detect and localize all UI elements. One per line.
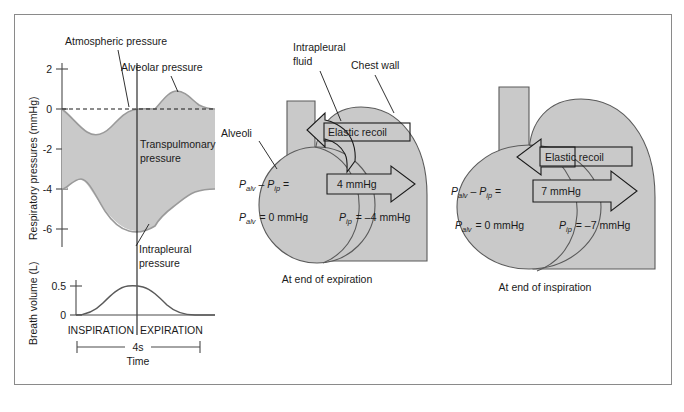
atmospheric-leader-line [118, 50, 129, 107]
palv-symbol: P [239, 211, 246, 223]
inspiration-caption: At end of inspiration [499, 281, 592, 293]
equation-minus: – [470, 185, 476, 197]
phase-label-expiration: EXPIRATION [140, 324, 203, 336]
palv-value-text: = 0 mmHg [259, 211, 308, 223]
figure-frame: Respiratory pressures (mmHg) 2 0 -2 -4 -… [14, 14, 672, 385]
pip-subscript-eq: ip [274, 184, 280, 193]
alveoli-label: Alveoli [221, 127, 252, 139]
duration-label: 4s [132, 341, 143, 353]
y-axis-label: Respiratory pressures (mmHg) [27, 96, 39, 240]
volume-y-axis-label: Breath volume (L) [27, 262, 39, 345]
chest-wall-leader-line [375, 75, 394, 113]
palv-symbol: P [455, 219, 462, 231]
time-axis-label: Time [127, 355, 150, 367]
palv-subscript-eq: alv [458, 191, 469, 200]
expiration-caption: At end of expiration [282, 273, 373, 285]
pip-subscript: ip [346, 217, 352, 226]
equation-value-inspiration: 7 mmHg [541, 185, 581, 197]
pip-subscript-eq: ip [486, 191, 492, 200]
equation-value-expiration: 4 mmHg [337, 178, 377, 190]
equation-equals: = [495, 185, 501, 197]
ytick-label-2: 2 [46, 63, 52, 75]
alveolar-pressure-label: Alveolar pressure [121, 61, 203, 73]
inspiration-panel: Elastic recoil Palv–Pip= 7 mmHg Palv= 0 … [433, 25, 673, 365]
equation-equals: = [283, 178, 289, 190]
alveoli-leader-line [259, 141, 277, 169]
atmospheric-pressure-label: Atmospheric pressure [65, 35, 167, 47]
pip-symbol-eq: P [267, 178, 274, 190]
transpulmonary-pressure-label-line1: Transpulmonary [140, 138, 216, 150]
palv-symbol-eq: P [239, 178, 246, 190]
intrapleural-pressure-label-line2: pressure [139, 257, 180, 269]
pip-symbol: P [339, 211, 346, 223]
ytick-label-neg4: -4 [43, 183, 52, 195]
transpulmonary-pressure-label-line2: pressure [140, 152, 181, 164]
ytick-label-0: 0 [46, 103, 52, 115]
breath-volume-curve [76, 286, 215, 315]
equation-minus: – [258, 178, 264, 190]
intrapleural-fluid-leader-line [320, 71, 341, 121]
palv-subscript: alv [246, 217, 257, 226]
volume-tick-label-0: 0 [60, 309, 66, 321]
pip-subscript: ip [566, 225, 572, 234]
inspiration-svg: Elastic recoil Palv–Pip= 7 mmHg Palv= 0 … [433, 25, 673, 365]
chest-wall-label: Chest wall [351, 59, 399, 71]
alveolar-leader-line [171, 76, 178, 92]
intrapleural-pressure-label-line1: Intrapleural [139, 243, 192, 255]
palv-symbol-eq: P [451, 185, 458, 197]
graph-svg: Respiratory pressures (mmHg) 2 0 -2 -4 -… [15, 15, 235, 365]
elastic-recoil-label: Elastic recoil [328, 126, 387, 138]
pip-symbol: P [559, 219, 566, 231]
pip-value-text: = –7 mmHg [576, 219, 631, 231]
palv-value-text: = 0 mmHg [475, 219, 524, 231]
pip-symbol-eq: P [479, 185, 486, 197]
alveoli-shape [259, 147, 375, 263]
graph-panel: Respiratory pressures (mmHg) 2 0 -2 -4 -… [15, 15, 235, 365]
ytick-label-neg6: -6 [43, 223, 52, 235]
phase-label-inspiration: INSPIRATION [68, 324, 134, 336]
ytick-label-neg2: -2 [43, 143, 52, 155]
elastic-recoil-label: Elastic recoil [545, 151, 604, 163]
palv-subscript-eq: alv [246, 184, 257, 193]
palv-subscript: alv [462, 225, 473, 234]
transpulmonary-shaded-region [62, 91, 215, 231]
expiration-svg: Intrapleural fluid Chest wall Alveoli El… [215, 25, 445, 365]
intrapleural-fluid-label-line2: fluid [293, 55, 312, 67]
expiration-panel: Intrapleural fluid Chest wall Alveoli El… [215, 25, 445, 365]
volume-tick-label-05: 0.5 [51, 280, 66, 292]
pip-value-text: = –4 mmHg [356, 211, 411, 223]
intrapleural-fluid-label-line1: Intrapleural [293, 41, 346, 53]
